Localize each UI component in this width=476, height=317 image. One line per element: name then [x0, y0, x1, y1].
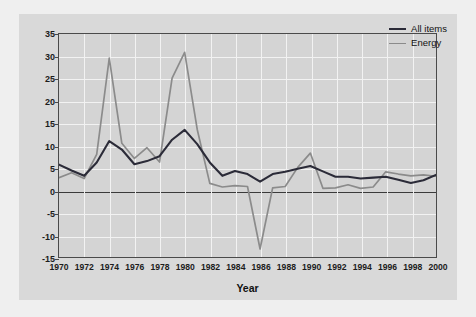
x-tick-label: 1984 [226, 262, 245, 272]
y-tick-label: -10 [42, 232, 55, 242]
y-tick-label: -5 [47, 209, 55, 219]
y-tick-label: 20 [45, 97, 55, 107]
x-tick-label: 1998 [403, 262, 422, 272]
legend-label: Energy [411, 36, 441, 50]
legend-swatch-icon [389, 43, 406, 44]
y-tick-label: 10 [45, 142, 55, 152]
chart-figure: Change (percentage) 35302520151050-5-10-… [19, 14, 457, 300]
y-tick-label: 15 [45, 119, 55, 129]
series-line-energy [59, 52, 436, 249]
x-axis-label: Year [58, 282, 437, 294]
x-tick-label: 1974 [100, 262, 119, 272]
x-tick-label: 1978 [151, 262, 170, 272]
x-tick-label: 1990 [302, 262, 321, 272]
series-lines [59, 34, 436, 257]
legend-label: All items [411, 22, 447, 36]
y-tick-mark [55, 259, 59, 260]
x-tick-label: 1980 [176, 262, 195, 272]
series-line-all-items [59, 130, 436, 183]
y-tick-label: 35 [45, 29, 55, 39]
x-tick-label: 1982 [201, 262, 220, 272]
chart-legend: All itemsEnergy [389, 22, 447, 50]
y-tick-label: 25 [45, 74, 55, 84]
x-tick-label: 1996 [378, 262, 397, 272]
x-tick-label: 1992 [327, 262, 346, 272]
plot-area: 35302520151050-5-10-15 19701972197419761… [58, 33, 437, 258]
x-tick-label: 1970 [49, 262, 68, 272]
y-axis-label-container: Change (percentage) [25, 33, 47, 258]
x-tick-label: 2000 [428, 262, 447, 272]
x-tick-label: 1976 [125, 262, 144, 272]
legend-item-all-items[interactable]: All items [389, 22, 447, 36]
x-tick-label: 1972 [75, 262, 94, 272]
x-tick-label: 1986 [252, 262, 271, 272]
legend-swatch-icon [389, 28, 406, 30]
x-tick-label: 1988 [277, 262, 296, 272]
y-tick-label: 30 [45, 52, 55, 62]
x-tick-label: 1994 [353, 262, 372, 272]
legend-item-energy[interactable]: Energy [389, 36, 447, 50]
